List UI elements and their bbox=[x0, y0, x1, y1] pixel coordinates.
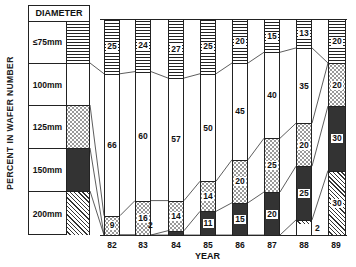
data-label: 9 bbox=[109, 221, 116, 230]
bar-segment: 15 bbox=[265, 20, 279, 52]
bar-87: 15402520 bbox=[264, 20, 280, 235]
data-label: 20 bbox=[331, 81, 342, 90]
bar-segment: 13 bbox=[297, 20, 311, 48]
bar-segment: 66 bbox=[105, 74, 119, 216]
data-label: 50 bbox=[202, 124, 213, 133]
data-label: 24 bbox=[137, 41, 148, 50]
bar-83: 246016 bbox=[135, 20, 151, 235]
bar-82: 25669 bbox=[104, 20, 120, 235]
bar-segment: 25 bbox=[297, 166, 311, 220]
bar-segment: 14 bbox=[201, 181, 215, 211]
outside-data-label: 2 bbox=[315, 223, 320, 233]
x-tick-label: 83 bbox=[133, 240, 153, 250]
bar-segment: 30 bbox=[329, 106, 345, 171]
bar-segment: 27 bbox=[169, 20, 183, 78]
data-label: 20 bbox=[298, 141, 309, 150]
data-label: 30 bbox=[331, 134, 342, 143]
bar-segment: 45 bbox=[233, 63, 247, 160]
x-tick-label: 87 bbox=[262, 240, 282, 250]
data-label: 13 bbox=[298, 29, 309, 38]
data-label: 45 bbox=[234, 107, 245, 116]
bar-segment: 20 bbox=[329, 20, 345, 63]
bar-segment: 35 bbox=[297, 48, 311, 123]
data-label: 25 bbox=[298, 189, 309, 198]
data-label: 27 bbox=[170, 45, 181, 54]
data-label: 20 bbox=[234, 37, 245, 46]
bar-segment: 20 bbox=[297, 123, 311, 166]
data-label: 15 bbox=[234, 215, 245, 224]
data-label: 14 bbox=[202, 192, 213, 201]
data-label: 11 bbox=[203, 219, 214, 228]
bar-segment: 25 bbox=[105, 20, 119, 74]
data-label: 66 bbox=[106, 141, 117, 150]
bar-segment: 57 bbox=[169, 78, 183, 201]
bar-85: 25501411 bbox=[200, 20, 216, 235]
bar-segment bbox=[297, 220, 311, 224]
data-label: 57 bbox=[170, 135, 181, 144]
data-label: 35 bbox=[298, 82, 309, 91]
bar-segment: 30 bbox=[329, 171, 345, 236]
bar-segment: 15 bbox=[233, 203, 247, 235]
data-label: 20 bbox=[266, 210, 277, 219]
data-label: 16 bbox=[137, 214, 148, 223]
bar-segment: 24 bbox=[136, 20, 150, 72]
x-tick-label: 89 bbox=[326, 240, 346, 250]
data-label: 25 bbox=[202, 42, 213, 51]
bar-segment: 9 bbox=[105, 216, 119, 235]
x-tick-label: 88 bbox=[294, 240, 314, 250]
data-label: 25 bbox=[106, 42, 117, 51]
data-label: 40 bbox=[266, 91, 277, 100]
data-label: 60 bbox=[137, 132, 148, 141]
bar-segment: 20 bbox=[329, 63, 345, 106]
data-label: 25 bbox=[266, 161, 277, 170]
bar-segment: 50 bbox=[201, 74, 215, 182]
x-tick-label: 86 bbox=[230, 240, 250, 250]
bar-86: 20452015 bbox=[232, 20, 248, 235]
data-label: 20 bbox=[234, 177, 245, 186]
x-tick-label: 84 bbox=[166, 240, 186, 250]
bar-84: 275714 bbox=[168, 20, 184, 235]
data-label: 14 bbox=[170, 212, 181, 221]
data-label: 20 bbox=[331, 37, 342, 46]
bar-segment: 60 bbox=[136, 72, 150, 201]
bar-segment: 11 bbox=[201, 211, 215, 235]
x-tick-label: 82 bbox=[102, 240, 122, 250]
bar-89: 20203030 bbox=[328, 20, 346, 235]
x-axis-label: YEAR bbox=[195, 251, 220, 261]
bar-segment: 25 bbox=[201, 20, 215, 74]
bar-segment: 20 bbox=[233, 160, 247, 203]
bar-segment bbox=[169, 231, 183, 235]
bar-segment: 20 bbox=[265, 192, 279, 235]
bar-segment: 20 bbox=[233, 20, 247, 63]
data-label: 15 bbox=[266, 32, 277, 41]
data-label: 30 bbox=[331, 199, 342, 208]
bar-segment: 14 bbox=[169, 201, 183, 231]
outside-data-label: 2 bbox=[148, 220, 153, 230]
bar-88: 13352025 bbox=[296, 20, 312, 235]
bar-segment: 25 bbox=[265, 138, 279, 192]
x-tick-label: 85 bbox=[198, 240, 218, 250]
bar-segment: 40 bbox=[265, 52, 279, 138]
